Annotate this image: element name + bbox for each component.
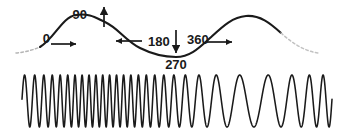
phase-label-180: 180 bbox=[148, 34, 170, 49]
phase-label-0: 0 bbox=[43, 31, 50, 46]
phase-label-90: 90 bbox=[73, 7, 87, 22]
fm-modulation-figure: 0 90 180 270 360 bbox=[0, 0, 351, 132]
phase-label-270: 270 bbox=[165, 57, 187, 72]
phase-label-360: 360 bbox=[187, 32, 209, 47]
